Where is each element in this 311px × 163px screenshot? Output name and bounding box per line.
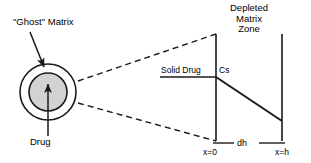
drug-label: Drug [30,137,51,148]
callout-dashed-line-bottom [78,103,216,141]
dh-thickness-label: dh [237,138,247,148]
depleted-matrix-zone-label: Depleted Matrix Zone [216,3,282,35]
x-zero-axis-label: x=0 [203,148,217,158]
concentration-gradient-line [216,77,282,121]
ghost-matrix-leader-arrow [30,32,44,67]
x-h-axis-label: x=h [275,148,289,158]
ghost-matrix-label: "Ghost" Matrix [13,17,74,28]
cs-concentration-label: Cs [219,66,229,76]
zone-label-line-3: Zone [216,24,282,35]
diffusion-layer-diagram: "Ghost" Matrix Drug Depleted Matrix Zone… [0,0,311,163]
solid-drug-label: Solid Drug [161,66,201,76]
